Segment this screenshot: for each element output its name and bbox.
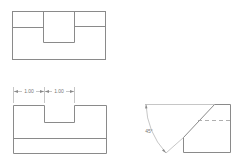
side-view: 45° bbox=[145, 105, 231, 154]
front-view-outline bbox=[14, 106, 107, 154]
angle-extension-line bbox=[166, 138, 184, 154]
dimension-label: 1.00 bbox=[54, 88, 64, 94]
arrow-down-icon bbox=[162, 149, 166, 153]
angle-label: 45° bbox=[145, 128, 153, 134]
arrow-right-icon bbox=[70, 90, 74, 93]
arrow-right-icon bbox=[40, 90, 44, 93]
orthographic-drawing: 1.00 1.00 45° bbox=[0, 0, 238, 160]
arrow-left-icon bbox=[14, 90, 18, 93]
dimension-label: 1.00 bbox=[24, 88, 34, 94]
arrow-left-icon bbox=[45, 90, 49, 93]
top-view-outline bbox=[13, 12, 106, 60]
side-view-outline bbox=[184, 105, 231, 153]
top-view bbox=[13, 12, 106, 60]
front-view: 1.00 1.00 bbox=[14, 87, 107, 154]
top-view-slot bbox=[44, 12, 75, 43]
